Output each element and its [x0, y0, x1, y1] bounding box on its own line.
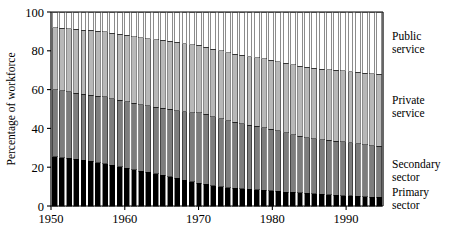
bar-segment	[355, 12, 360, 72]
bar-segment	[146, 39, 151, 106]
bar-segment	[254, 126, 259, 189]
y-tick-label: 100	[25, 6, 44, 20]
bar-segment	[182, 12, 187, 44]
bar-segment	[240, 189, 245, 206]
chart-figure: 020406080100 19501960197019801990 Percen…	[0, 0, 455, 240]
bar-segment	[124, 168, 129, 206]
bar-segment	[110, 12, 115, 33]
bar-segment	[139, 105, 144, 172]
bar-segment	[261, 59, 266, 128]
bar-segment	[283, 192, 288, 206]
bar-segment	[290, 65, 295, 135]
bar-segment	[117, 12, 122, 34]
bar-segment	[377, 146, 382, 197]
bar-segment	[305, 67, 310, 137]
bar-segment	[261, 12, 266, 59]
y-tick-label: 60	[32, 83, 45, 97]
bar-segment	[370, 146, 375, 197]
bar-segment	[197, 113, 202, 183]
bar-segment	[175, 111, 180, 179]
bar-segment	[95, 31, 100, 96]
bar-segment	[189, 113, 194, 182]
bar-segment	[247, 12, 252, 57]
bar-segment	[95, 96, 100, 163]
bar-segment	[132, 12, 137, 37]
bar-segment	[74, 93, 79, 159]
bar-segment	[377, 197, 382, 206]
bar-segment	[81, 12, 86, 30]
bar-segment	[153, 107, 158, 174]
bar-segment	[240, 55, 245, 123]
bar-segment	[160, 108, 165, 175]
legend-label-line1: Public	[392, 30, 421, 42]
bar-segment	[276, 191, 281, 206]
bar-segment	[247, 125, 252, 189]
bar-segment	[211, 117, 216, 186]
legend-label-line1: Primary	[392, 186, 429, 199]
bar-segment	[182, 44, 187, 112]
x-tick-label: 1970	[186, 212, 211, 226]
legend-label-line1: Secondary	[392, 158, 441, 171]
bar-segment	[117, 167, 122, 206]
bar-segment	[175, 178, 180, 206]
bar-segment	[139, 171, 144, 206]
bar-segment	[168, 177, 173, 206]
bar-segment	[182, 112, 187, 180]
bar-segment	[225, 53, 230, 121]
bar-segment	[305, 193, 310, 206]
bar-segment	[363, 73, 368, 145]
bar-segment	[247, 189, 252, 206]
bar-segment	[88, 30, 93, 95]
bar-segment	[160, 175, 165, 206]
bar-segment	[204, 12, 209, 47]
bar-segment	[355, 144, 360, 197]
bar-segment	[261, 190, 266, 206]
bar-segment	[233, 12, 238, 54]
bar-segment	[103, 164, 108, 206]
bar-segment	[276, 12, 281, 62]
bar-segment	[334, 141, 339, 195]
legend-label-line2: service	[392, 107, 425, 119]
bar-segment	[233, 54, 238, 122]
bar-segment	[283, 12, 288, 63]
legend-label-line2: sector	[392, 199, 420, 211]
bar-segment	[67, 12, 72, 29]
bar-segment	[211, 49, 216, 117]
bar-segment	[261, 128, 266, 190]
chart-legend: PublicservicePrivateserviceSecondarysect…	[392, 30, 441, 211]
y-tick-label: 40	[32, 122, 45, 136]
bar-segment	[197, 183, 202, 206]
bar-segment	[74, 159, 79, 206]
bar-segment	[52, 157, 57, 206]
bar-segment	[326, 195, 331, 206]
bar-segment	[59, 28, 64, 91]
bar-segment	[146, 172, 151, 206]
bar-segment	[189, 182, 194, 206]
bar-segment	[290, 135, 295, 193]
bar-segment	[81, 160, 86, 206]
bar-segment	[103, 97, 108, 164]
bar-segment	[355, 72, 360, 143]
bar-segment	[305, 12, 310, 67]
bar-segment	[319, 69, 324, 139]
bar-segment	[312, 194, 317, 206]
bar-segment	[59, 12, 64, 28]
bar-segment	[153, 174, 158, 206]
bar-segment	[355, 196, 360, 206]
bar-segment	[269, 129, 274, 191]
bar-segment	[218, 187, 223, 206]
bar-segment	[348, 12, 353, 72]
bar-segment	[247, 57, 252, 125]
bar-segment	[204, 184, 209, 206]
bar-segment	[283, 133, 288, 192]
x-tick-label: 1980	[260, 212, 285, 226]
y-tick-label: 80	[32, 44, 45, 58]
bar-segment	[189, 12, 194, 45]
bar-segment	[312, 68, 317, 138]
bar-segment	[168, 41, 173, 109]
bar-segment	[67, 158, 72, 206]
bar-segment	[153, 12, 158, 40]
bar-segment	[160, 12, 165, 40]
bar-segment	[103, 12, 108, 32]
bar-segment	[211, 12, 216, 49]
